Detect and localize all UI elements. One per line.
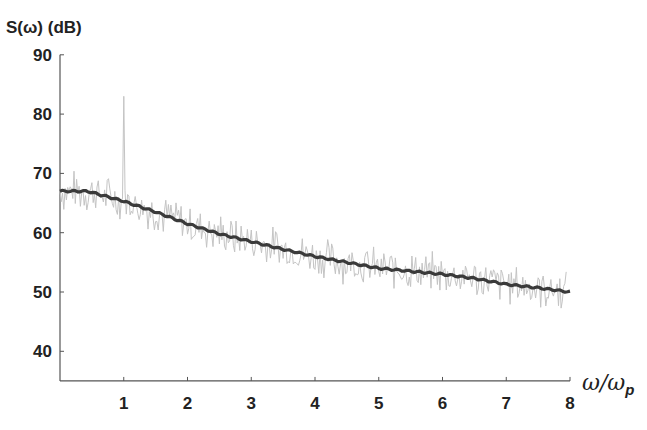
- svg-text:2: 2: [183, 394, 192, 413]
- spectrum-chart: 40506070809012345678: [0, 0, 647, 430]
- smoothed-spectrum-line: [60, 190, 570, 292]
- x-axis-label-sub: p: [625, 381, 634, 398]
- svg-text:1: 1: [119, 394, 128, 413]
- tick-labels: 40506070809012345678: [33, 46, 575, 413]
- svg-text:6: 6: [438, 394, 447, 413]
- axes: [60, 55, 570, 381]
- svg-text:7: 7: [502, 394, 511, 413]
- svg-text:60: 60: [33, 224, 52, 243]
- y-axis-label: S(ω) (dB): [6, 18, 82, 38]
- svg-text:3: 3: [247, 394, 256, 413]
- svg-text:80: 80: [33, 105, 52, 124]
- svg-text:50: 50: [33, 283, 52, 302]
- svg-text:4: 4: [310, 394, 320, 413]
- svg-text:90: 90: [33, 46, 52, 65]
- raw-spectrum-line: [60, 96, 566, 308]
- x-axis-label: ω/ωp: [582, 370, 634, 398]
- x-axis-label-main: ω/ω: [582, 370, 625, 395]
- svg-text:5: 5: [374, 394, 383, 413]
- svg-text:40: 40: [33, 342, 52, 361]
- svg-text:70: 70: [33, 164, 52, 183]
- svg-text:8: 8: [565, 394, 574, 413]
